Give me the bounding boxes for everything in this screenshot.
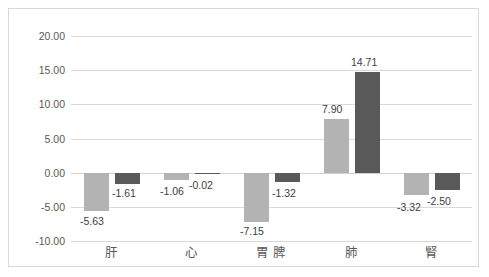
- y-axis-tick-label: -10.00: [13, 236, 65, 247]
- x-axis: 肝 心 胃 脾 肺 腎: [71, 9, 472, 268]
- x-axis-category-label: 胃 脾: [231, 247, 311, 260]
- y-axis-tick-label: 20.00: [13, 31, 65, 42]
- x-axis-category-label: 心: [151, 247, 231, 260]
- y-axis-tick-label: 0.00: [13, 168, 65, 179]
- y-axis-tick-label: 15.00: [13, 65, 65, 76]
- y-axis-tick-label: 5.00: [13, 133, 65, 144]
- x-axis-category-label: 肺: [311, 247, 391, 260]
- x-axis-category-label: 肝: [71, 247, 151, 260]
- y-axis: 20.00 15.00 10.00 5.00 0.00 -5.00 -10.00: [9, 36, 65, 241]
- y-axis-tick-label: -5.00: [13, 202, 65, 213]
- x-axis-category-label: 腎: [391, 247, 471, 260]
- chart-frame: 20.00 15.00 10.00 5.00 0.00 -5.00 -10.00…: [8, 8, 479, 267]
- y-axis-tick-label: 10.00: [13, 99, 65, 110]
